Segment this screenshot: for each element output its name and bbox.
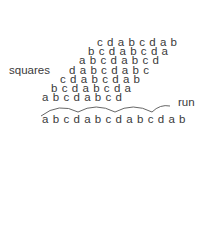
run-row: abcdabcdabcdab [42, 113, 190, 125]
arc-3 [115, 107, 152, 112]
arc-2 [78, 107, 115, 112]
arc-4 [152, 106, 170, 112]
